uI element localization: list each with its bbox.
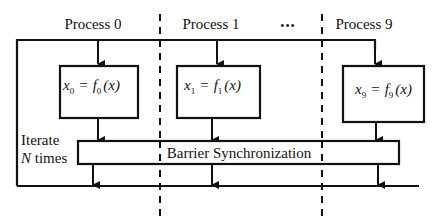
barrier-label: Barrier Synchronization <box>167 145 312 161</box>
process-9-label: Process 9 <box>335 16 392 32</box>
iterate-label-line1: Iterate <box>21 132 60 148</box>
process-1-label: Process 1 <box>182 16 239 32</box>
iterate-label-line2: N times <box>20 150 67 166</box>
parallel-iteration-diagram: Process 0 Process 1 ••• Process 9 x0=f0(… <box>0 0 440 217</box>
ellipsis-indicator: ••• <box>280 19 296 33</box>
process-0-label: Process 0 <box>64 16 121 32</box>
